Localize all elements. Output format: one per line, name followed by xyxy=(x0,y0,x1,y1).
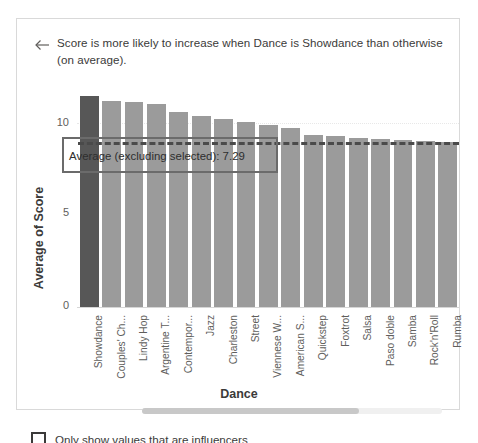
x-axis-tick-label[interactable]: Rock'n'Roll xyxy=(414,313,436,381)
scrollbar-thumb[interactable] xyxy=(142,408,359,414)
x-axis-tick-label[interactable]: Argentine T... xyxy=(145,313,167,381)
x-axis-tick-labels: ShowdanceCouples' Ch...Lindy HopArgentin… xyxy=(78,309,459,381)
bar[interactable] xyxy=(394,140,413,307)
card-title: Score is more likely to increase when Da… xyxy=(57,35,447,68)
screenshot-root: Score is more likely to increase when Da… xyxy=(0,0,478,443)
x-axis-title: Dance xyxy=(17,387,461,401)
bar[interactable] xyxy=(438,142,457,307)
only-influencers-checkbox[interactable] xyxy=(31,432,46,443)
y-axis-tick-0: 0 xyxy=(43,299,69,311)
x-axis-tick-label[interactable]: Street xyxy=(235,313,257,381)
bar[interactable] xyxy=(416,141,435,307)
x-axis-tick-label[interactable]: American S... xyxy=(280,313,302,381)
x-axis-tick-label[interactable]: Paso doble xyxy=(369,313,391,381)
x-axis-tick-label[interactable]: Couples' Ch... xyxy=(100,313,122,381)
chart-plot-area: Average of Score 10 5 0 Average (excludi… xyxy=(17,81,461,381)
bar[interactable] xyxy=(326,136,345,307)
x-axis-tick-label[interactable]: Quickstep xyxy=(302,313,324,381)
x-axis-tick-label[interactable]: Jazz xyxy=(190,313,212,381)
bar[interactable] xyxy=(80,96,99,307)
x-axis-tick-label[interactable]: Samba xyxy=(392,313,414,381)
x-axis-tick-label[interactable]: Contempor... xyxy=(168,313,190,381)
bar[interactable] xyxy=(371,139,390,307)
card-header: Score is more likely to increase when Da… xyxy=(17,35,461,81)
x-axis-tick-label[interactable]: Showdance xyxy=(78,313,100,381)
x-axis-tick-label[interactable]: Lindy Hop xyxy=(123,313,145,381)
y-axis-tick-10: 10 xyxy=(43,116,69,128)
bar[interactable] xyxy=(147,104,166,307)
x-axis-tick-label[interactable]: Foxtrot xyxy=(325,313,347,381)
bar[interactable] xyxy=(281,128,300,307)
x-axis-baseline xyxy=(77,307,459,308)
x-axis-tick-label[interactable]: Charleston xyxy=(212,313,234,381)
bar-series xyxy=(78,81,459,307)
bar[interactable] xyxy=(304,135,323,307)
y-axis-tick-5: 5 xyxy=(43,206,69,218)
bar[interactable] xyxy=(102,101,121,307)
x-axis-tick-label[interactable]: Viennese W... xyxy=(257,313,279,381)
arrow-left-icon[interactable] xyxy=(33,36,51,54)
only-influencers-label: Only show values that are influencers xyxy=(55,433,248,443)
y-axis-title: Average of Score xyxy=(32,168,46,308)
influencer-card: Score is more likely to increase when Da… xyxy=(16,18,460,410)
x-axis-tick-label[interactable]: Rumba xyxy=(437,313,459,381)
average-callout-label: Average (excluding selected): 7.29 xyxy=(69,150,245,162)
bar[interactable] xyxy=(125,102,144,307)
x-axis-tick-label[interactable]: Salsa xyxy=(347,313,369,381)
card-footer: Only show values that are influencers xyxy=(17,423,461,443)
x-axis-tick-text: Rumba xyxy=(452,315,463,348)
horizontal-scrollbar[interactable] xyxy=(142,408,442,414)
bar[interactable] xyxy=(349,138,368,308)
